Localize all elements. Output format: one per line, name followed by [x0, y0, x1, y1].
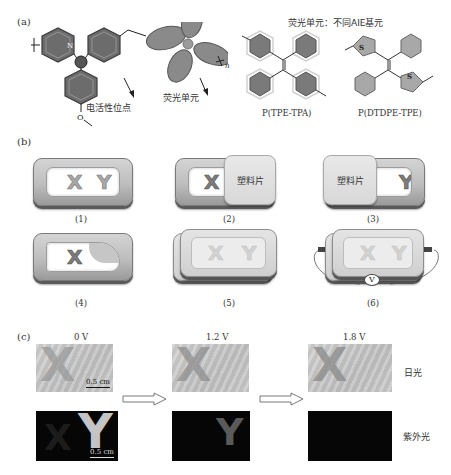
peeled-layer [89, 242, 120, 263]
scale-bar: 0.5 cm [90, 449, 114, 458]
voltage-0: 0 V [74, 332, 88, 342]
letter-x: X [67, 170, 82, 194]
daylight-photo-1-8v: X [308, 344, 392, 392]
polymer-structure-diagram [28, 22, 228, 132]
step-1-label: (1) [75, 214, 87, 224]
plastic-sheet-label: 塑料片 [237, 174, 264, 187]
letter-x-image: X [312, 344, 347, 388]
letter-x: X [208, 241, 223, 265]
sulfur-atom-1: S [359, 43, 364, 52]
step-5-label: (5) [223, 298, 235, 308]
step-4-label: (4) [75, 298, 87, 308]
voltmeter-icon: V [364, 274, 380, 286]
methoxy-oxygen: O [77, 113, 84, 122]
repeat-unit-n: n [225, 62, 230, 70]
letter-x: X [67, 245, 82, 269]
letter-y: Y [97, 170, 111, 194]
letter-y: Y [399, 170, 412, 194]
daylight-photo-1-2v: X [172, 344, 249, 392]
fluorescent-unit-label: 荧光单元 [163, 91, 199, 104]
letter-x: X [204, 170, 219, 194]
panel-b-label: (b) [17, 136, 31, 147]
letter-y: Y [392, 241, 406, 265]
daylight-row-label: 日光 [404, 366, 422, 379]
letter-y: Y [242, 241, 256, 265]
tpe-tpa-structure [240, 30, 330, 102]
letter-y-dim: Y [216, 413, 244, 451]
step-6-label: (6) [367, 298, 379, 308]
arrow-right-icon [259, 392, 305, 406]
device-step-6-front: X Y [332, 229, 424, 277]
voltage-1-2: 1.2 V [206, 332, 228, 342]
step-2-label: (2) [223, 214, 235, 224]
uv-photo-1-8v [308, 411, 392, 461]
plastic-sheet-right: 塑料片 [224, 155, 276, 205]
letter-x-image: X [176, 344, 211, 388]
step-3-label: (3) [367, 214, 379, 224]
uv-photo-0v: X Y 0.5 cm [36, 411, 118, 461]
device-step-1: X Y [33, 158, 133, 206]
sulfur-atom-2: S [407, 72, 412, 81]
arrow-right-icon [122, 392, 168, 406]
letter-x-faint: X [44, 417, 72, 458]
voltage-1-8: 1.8 V [343, 332, 365, 342]
daylight-photo-0v: X 0.5 cm [36, 344, 113, 392]
letter-x: X [360, 241, 375, 265]
dtdpe-tpe-name: P(DTDPE-TPE) [358, 108, 422, 118]
tpe-tpa-name: P(TPE-TPA) [262, 108, 311, 118]
plastic-sheet-label: 塑料片 [337, 174, 364, 187]
device-step-5-front: X Y [180, 229, 277, 277]
letter-x-image: X [40, 344, 75, 388]
electroactive-site-label: 电活性位点 [86, 101, 131, 114]
panel-c-label: (c) [17, 331, 30, 342]
device-step-4: X [33, 233, 133, 281]
aie-title: 荧光单元：不同AIE基元 [288, 16, 384, 29]
uv-row-label: 紫外光 [403, 430, 430, 443]
uv-photo-1-2v: Y [172, 411, 250, 461]
nitrogen-atom: N [67, 42, 73, 50]
dtdpe-tpe-structure [345, 30, 435, 102]
plastic-sheet-left: 塑料片 [323, 155, 377, 205]
scale-bar: 0.5 cm [86, 379, 110, 388]
